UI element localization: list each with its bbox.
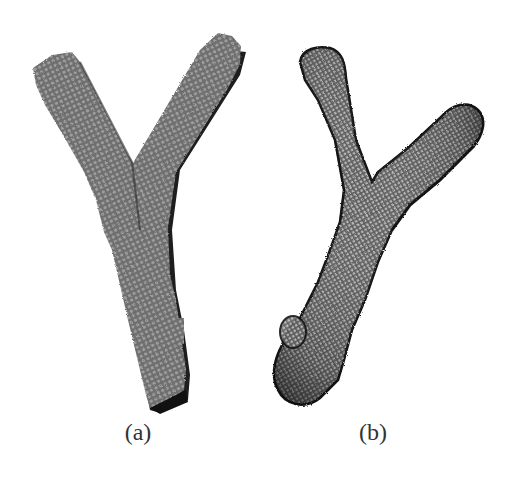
panel-b-bulge xyxy=(280,316,306,348)
panel-a-body xyxy=(33,33,241,408)
panel-b-shading xyxy=(274,47,483,404)
figure-graphics xyxy=(0,0,512,477)
panel-b-mesh-model xyxy=(274,47,483,404)
panel-a-bump xyxy=(172,318,184,344)
panel-b-caption: (b) xyxy=(343,420,403,444)
panel-a-caption: (a) xyxy=(108,420,168,444)
figure: (a) (b) xyxy=(0,0,512,477)
panel-a-voxel-model xyxy=(33,33,246,414)
